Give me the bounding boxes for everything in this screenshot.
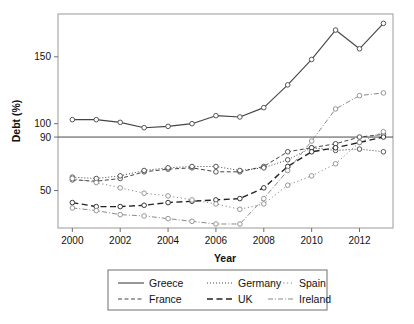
x-axis-title: Year <box>214 252 236 264</box>
data-point-marker <box>285 168 290 173</box>
data-point-marker <box>381 91 386 96</box>
legend-label: UK <box>238 293 253 305</box>
data-point-marker <box>166 216 171 221</box>
x-tick-label: 2010 <box>301 235 324 246</box>
data-point-marker <box>118 120 123 125</box>
y-axis-title: Debt (%) <box>10 100 22 143</box>
data-point-marker <box>238 115 243 120</box>
data-point-marker <box>70 206 75 211</box>
data-point-marker <box>190 121 195 126</box>
data-point-marker <box>285 183 290 188</box>
data-point-marker <box>166 200 171 205</box>
y-tick-label: 100 <box>34 118 51 129</box>
data-point-marker <box>118 204 123 209</box>
x-tick-label: 2006 <box>205 235 228 246</box>
data-point-marker <box>166 124 171 129</box>
data-point-marker <box>94 180 99 185</box>
data-point-marker <box>214 170 219 175</box>
x-tick-label: 2004 <box>157 235 180 246</box>
data-point-marker <box>309 139 314 144</box>
data-point-marker <box>357 46 362 51</box>
data-point-marker <box>142 214 147 219</box>
data-point-marker <box>333 162 338 167</box>
data-point-marker <box>357 135 362 140</box>
legend-label: France <box>149 293 182 305</box>
x-tick-label: 2000 <box>61 235 84 246</box>
data-point-marker <box>238 207 243 212</box>
y-tick-label: 50 <box>40 185 52 196</box>
data-point-marker <box>166 166 171 171</box>
data-point-marker <box>94 208 99 213</box>
data-point-marker <box>190 164 195 169</box>
data-point-marker <box>94 117 99 122</box>
data-point-marker <box>118 186 123 191</box>
legend-label: Ireland <box>299 293 331 305</box>
data-point-marker <box>285 149 290 154</box>
data-point-marker <box>142 191 147 196</box>
data-point-marker <box>381 135 386 140</box>
legend-label: Germany <box>238 277 282 289</box>
data-point-marker <box>261 196 266 201</box>
data-point-marker <box>238 222 243 227</box>
data-point-marker <box>70 200 75 205</box>
data-point-marker <box>214 164 219 169</box>
data-point-marker <box>214 222 219 227</box>
data-point-marker <box>70 117 75 122</box>
data-point-marker <box>285 157 290 162</box>
data-point-marker <box>333 28 338 33</box>
data-point-marker <box>238 168 243 173</box>
x-tick-label: 2002 <box>109 235 132 246</box>
data-point-marker <box>309 57 314 62</box>
data-point-marker <box>261 166 266 171</box>
data-point-marker <box>190 219 195 224</box>
data-point-marker <box>214 202 219 207</box>
data-point-marker <box>261 202 266 207</box>
data-point-marker <box>142 203 147 208</box>
data-point-marker <box>381 149 386 154</box>
data-point-marker <box>309 174 314 179</box>
legend-box <box>108 270 327 310</box>
data-point-marker <box>309 149 314 154</box>
data-point-marker <box>214 113 219 118</box>
data-point-marker <box>118 212 123 217</box>
data-point-marker <box>261 105 266 110</box>
data-point-marker <box>333 107 338 112</box>
legend-label: Spain <box>299 277 326 289</box>
data-point-marker <box>381 21 386 26</box>
y-tick-label: 150 <box>34 51 51 62</box>
data-point-marker <box>142 168 147 173</box>
data-point-marker <box>142 125 147 130</box>
data-point-marker <box>261 186 266 191</box>
debt-line-chart: 5090100150 2000200220042006200820102012 … <box>0 0 414 324</box>
data-point-marker <box>70 176 75 181</box>
data-point-marker <box>333 145 338 150</box>
legend-label: Greece <box>149 277 184 289</box>
chart-figure: 5090100150 2000200220042006200820102012 … <box>0 0 414 324</box>
x-tick-label: 2012 <box>348 235 371 246</box>
y-tick-label: 90 <box>40 132 52 143</box>
data-point-marker <box>238 196 243 201</box>
data-point-marker <box>118 174 123 179</box>
data-point-marker <box>166 194 171 199</box>
data-point-marker <box>285 83 290 88</box>
data-point-marker <box>381 129 386 134</box>
data-point-marker <box>357 147 362 152</box>
data-point-marker <box>190 198 195 203</box>
data-point-marker <box>357 140 362 145</box>
data-point-marker <box>357 93 362 98</box>
x-tick-label: 2008 <box>253 235 276 246</box>
